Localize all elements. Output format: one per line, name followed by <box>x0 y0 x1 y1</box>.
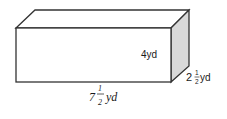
length-label: 7 1 2 yd <box>89 84 118 107</box>
prism-diagram: 4yd 2 1 2 yd 7 1 2 yd <box>0 0 227 119</box>
height-label: 4yd <box>141 49 157 60</box>
svg-text:2: 2 <box>195 78 199 85</box>
svg-text:2: 2 <box>186 71 192 83</box>
svg-text:yd: yd <box>105 90 118 104</box>
svg-text:2: 2 <box>98 98 102 107</box>
svg-text:7: 7 <box>89 90 96 104</box>
depth-label: 2 1 2 yd <box>186 69 211 85</box>
svg-text:1: 1 <box>195 69 199 76</box>
svg-text:yd: yd <box>200 72 211 83</box>
prism-top-face <box>16 10 189 28</box>
svg-text:1: 1 <box>98 84 102 93</box>
